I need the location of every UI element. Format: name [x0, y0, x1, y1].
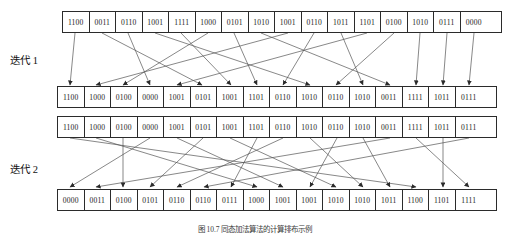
cell: 1101: [355, 12, 382, 32]
cell: 1100: [63, 12, 90, 32]
cell: 1000: [244, 190, 271, 210]
figure-canvas: 1100001101101001111110000101101010010110…: [0, 0, 510, 235]
cell: 1000: [85, 117, 112, 137]
iteration-2-output-row: 0000001101000101011001100111100010011001…: [57, 189, 497, 211]
figure-caption: 图 10.7 同态加法算法的计算排布示例: [0, 223, 510, 234]
cell: 1001: [217, 117, 244, 137]
cell: 0111: [217, 190, 244, 210]
cell: 0000: [138, 87, 165, 107]
cell: 1101: [429, 190, 456, 210]
cell: 1010: [297, 87, 324, 107]
cell: 0110: [323, 117, 350, 137]
cell: 1001: [270, 190, 297, 210]
cell: 1010: [249, 12, 276, 32]
cell: 0100: [111, 190, 138, 210]
iteration-2-label: 迭代 2: [10, 161, 38, 176]
cell: 0000: [138, 117, 165, 137]
cell: 0110: [164, 190, 191, 210]
cell: 1010: [350, 190, 377, 210]
cell: 1010: [323, 190, 350, 210]
cell: 0111: [456, 87, 483, 107]
cell: 1001: [143, 12, 170, 32]
input-row: 1100001101101001111110000101101010010110…: [62, 11, 502, 33]
cell: 0000: [461, 12, 488, 32]
cell: 1010: [350, 87, 377, 107]
cell: 0110: [323, 87, 350, 107]
cell: 1010: [350, 117, 377, 137]
cell: 1111: [403, 117, 430, 137]
cell: 0101: [191, 117, 218, 137]
iteration-1-output-row: 1100100001000000100101011001110101101010…: [57, 86, 497, 108]
cell: 1101: [244, 117, 271, 137]
cell: 1001: [164, 87, 191, 107]
cell: 0100: [111, 117, 138, 137]
cell: 1011: [429, 87, 456, 107]
cell: 1001: [297, 190, 324, 210]
cell: 0110: [270, 117, 297, 137]
cell: 1001: [164, 117, 191, 137]
cell: 1111: [403, 87, 430, 107]
cell: 0011: [376, 87, 403, 107]
cell: 1111: [456, 190, 483, 210]
cell: 1000: [196, 12, 223, 32]
cell: 0011: [90, 12, 117, 32]
cell: 0110: [116, 12, 143, 32]
cell: 0110: [270, 87, 297, 107]
cell: 0110: [191, 190, 218, 210]
cell: 0000: [58, 190, 85, 210]
cell: 1010: [408, 12, 435, 32]
cell: 0101: [222, 12, 249, 32]
cell: 0100: [381, 12, 408, 32]
cell: 0100: [111, 87, 138, 107]
cell: 1100: [403, 190, 430, 210]
cell: 1011: [376, 190, 403, 210]
cell: 0110: [302, 12, 329, 32]
cell: 1111: [169, 12, 196, 32]
cell: 1100: [58, 87, 85, 107]
iteration-1-label: 迭代 1: [10, 52, 38, 67]
cell: 0011: [376, 117, 403, 137]
cell: 0111: [434, 12, 461, 32]
cell: 0011: [85, 190, 112, 210]
cell: 1011: [429, 117, 456, 137]
cell: 1100: [58, 117, 85, 137]
cell: 0101: [191, 87, 218, 107]
cell: 1011: [328, 12, 355, 32]
cell: 0111: [456, 117, 483, 137]
cell: 1010: [297, 117, 324, 137]
iteration-2-input-row: 1100100001000000100101011001110101101010…: [57, 116, 497, 138]
cell: 1001: [217, 87, 244, 107]
cell: 1101: [244, 87, 271, 107]
cell: 1001: [275, 12, 302, 32]
cell: 1000: [85, 87, 112, 107]
cell: 0101: [138, 190, 165, 210]
